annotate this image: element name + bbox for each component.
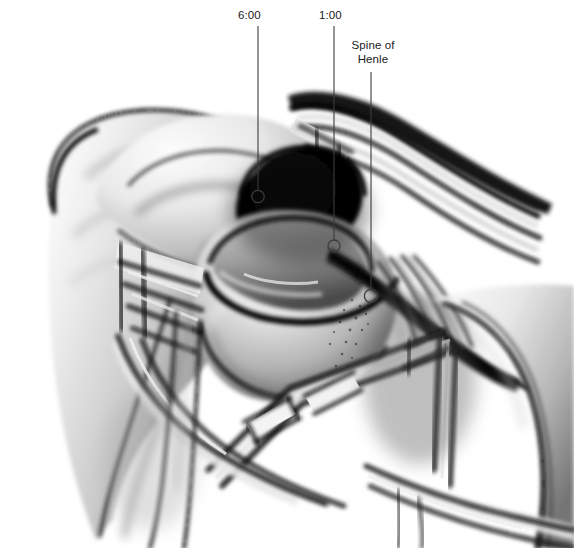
label-spine-line-1: Spine of	[344, 38, 402, 52]
illustration-canvas: 6:00 1:00 Spine of Henle	[0, 0, 574, 548]
label-clock-6: 6:00	[238, 8, 261, 22]
label-clock-1: 1:00	[319, 8, 342, 22]
label-spine-line-2: Henle	[344, 52, 402, 66]
label-spine-of-henle: Spine of Henle	[344, 38, 402, 66]
shoulder-anatomy-artwork	[0, 0, 574, 548]
